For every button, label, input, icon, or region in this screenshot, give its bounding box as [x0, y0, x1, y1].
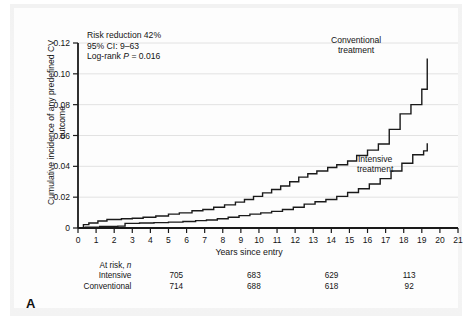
x-tick-label: 1: [94, 235, 99, 245]
x-tick-label: 21: [453, 235, 463, 245]
at-risk-header-row: At risk, n: [8, 261, 448, 271]
at-risk-label-conventional: Conventional: [8, 282, 137, 292]
at-risk-value: 683: [215, 271, 293, 281]
x-tick-label: 2: [112, 235, 117, 245]
x-tick-label: 19: [417, 235, 427, 245]
annotation-log-rank: Log-rank P = 0.016: [87, 51, 161, 62]
x-tick-label: 5: [166, 235, 171, 245]
curve-label-intensive-line2: treatment: [357, 164, 393, 174]
at-risk-label-intensive: Intensive: [8, 271, 137, 281]
at-risk-row-intensive: Intensive 705 683 629 113: [8, 271, 448, 281]
at-risk-header-text: At risk,: [100, 261, 127, 270]
at-risk-value: 618: [293, 282, 371, 292]
y-axis-title-text: Cumulative incidence of any predefined C…: [46, 40, 67, 205]
x-tick-label: 14: [327, 235, 337, 245]
x-tick-label: 9: [238, 235, 243, 245]
x-tick-label: 20: [435, 235, 445, 245]
x-tick-label: 13: [309, 235, 319, 245]
x-tick-label: 17: [381, 235, 391, 245]
x-tick-label: 16: [363, 235, 373, 245]
annotation-risk-reduction: Risk reduction 42%: [87, 30, 161, 41]
at-risk-value: 113: [370, 271, 448, 281]
panel-letter: A: [26, 296, 35, 311]
x-tick-label: 3: [130, 235, 135, 245]
figure-panel-a: 00.020.040.060.080.100.12 01234567891011…: [0, 0, 476, 335]
log-rank-prefix: Log-rank: [87, 51, 123, 61]
x-tick-label: 15: [345, 235, 355, 245]
y-tick-label: 0: [65, 223, 70, 233]
curve-conventional-treatment: [78, 58, 427, 228]
at-risk-value: 92: [370, 282, 448, 292]
y-axis-title: Cumulative incidence of any predefined C…: [46, 23, 67, 223]
at-risk-value: 714: [137, 282, 215, 292]
at-risk-table-grid: At risk, n Intensive 705 683 629 113 Con…: [8, 261, 448, 292]
at-risk-row-conventional: Conventional 714 688 618 92: [8, 282, 448, 292]
x-tick-label: 8: [220, 235, 225, 245]
x-tick-label: 12: [290, 235, 300, 245]
at-risk-table: At risk, n Intensive 705 683 629 113 Con…: [0, 261, 476, 292]
annotation-confidence-interval: 95% CI: 9–63: [87, 41, 161, 52]
x-axis-ticks: 0123456789101112131415161718192021: [76, 228, 463, 245]
x-tick-label: 0: [76, 235, 81, 245]
curve-label-intensive: Intensive treatment: [357, 154, 393, 174]
x-axis-title: Years since entry: [0, 247, 476, 257]
at-risk-value: 705: [137, 271, 215, 281]
x-tick-label: 18: [399, 235, 409, 245]
x-tick-label: 4: [148, 235, 153, 245]
curve-label-intensive-line1: Intensive: [357, 154, 393, 164]
curve-label-conventional-line2: treatment: [331, 45, 381, 55]
x-tick-label: 6: [184, 235, 189, 245]
gridlines: [78, 43, 458, 197]
at-risk-header-label: At risk, n: [8, 261, 137, 271]
x-axis-title-text: Years since entry: [215, 247, 282, 257]
at-risk-value: 688: [215, 282, 293, 292]
curve-label-conventional-line1: Conventional: [331, 35, 381, 45]
log-rank-value: = 0.016: [129, 51, 160, 61]
statistics-annotation: Risk reduction 42% 95% CI: 9–63 Log-rank…: [87, 30, 161, 62]
x-tick-label: 7: [202, 235, 207, 245]
at-risk-header-n: n: [127, 261, 132, 270]
x-tick-label: 10: [254, 235, 264, 245]
curve-label-conventional: Conventional treatment: [331, 35, 381, 55]
x-tick-label: 11: [273, 235, 282, 245]
at-risk-value: 629: [293, 271, 371, 281]
